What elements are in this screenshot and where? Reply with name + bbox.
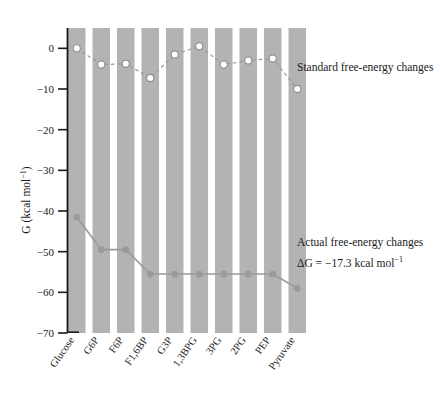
category-band: [117, 28, 135, 333]
y-tick-label: −40: [37, 205, 55, 217]
data-point-marker: [98, 246, 105, 253]
delta-g-prefix: ΔG =: [297, 257, 325, 269]
x-axis-category-label: 1,3BPG: [171, 335, 199, 369]
x-axis-category-label: F1,6BP: [123, 335, 150, 367]
x-axis-category-label: G6P: [81, 335, 101, 357]
data-point-marker: [196, 43, 203, 50]
data-point-marker: [196, 271, 203, 278]
y-axis-title-main: G (kcal mol: [20, 179, 33, 234]
free-energy-chart-figure: 0−10−20−30−40−50−60−70 G (kcal mol−1) Gl…: [0, 0, 440, 397]
data-point-marker: [245, 271, 252, 278]
delta-g-value: −17.3 kcal mol: [325, 257, 394, 269]
data-point-marker: [73, 45, 80, 52]
y-tick-label: −50: [37, 246, 55, 258]
data-point-marker: [147, 74, 154, 81]
standard-series-annotation: Standard free-energy changes: [297, 60, 433, 75]
data-point-marker: [171, 271, 178, 278]
x-axis-category-label: 3PG: [204, 335, 224, 357]
category-band: [142, 28, 160, 333]
category-band: [93, 28, 111, 333]
y-axis-title-close: ): [20, 166, 33, 170]
y-tick-label: 0: [49, 42, 55, 54]
category-band: [166, 28, 184, 333]
y-tick-group: 0−10−20−30−40−50−60−70: [37, 42, 68, 339]
category-band: [215, 28, 233, 333]
x-axis-category-label: PEP: [253, 335, 272, 356]
data-point-marker: [245, 57, 252, 64]
data-point-marker: [147, 271, 154, 278]
y-axis-title: G (kcal mol−1): [19, 166, 33, 233]
data-point-marker: [122, 60, 129, 67]
category-band: [240, 28, 258, 333]
actual-series-annotation: Actual free-energy changes ΔG = −17.3 kc…: [297, 235, 423, 271]
category-band: [191, 28, 209, 333]
data-point-marker: [269, 271, 276, 278]
y-tick-label: −30: [37, 164, 55, 176]
actual-series-label: Actual free-energy changes: [297, 235, 423, 250]
data-point-marker: [171, 51, 178, 58]
actual-delta-g-line: ΔG = −17.3 kcal mol−1: [297, 252, 423, 271]
x-axis-category-label: G3P: [155, 335, 175, 357]
x-axis-category-label-group: GlucoseG6PF6PF1,6BPG3P1,3BPG3PG2PGPEPPyr…: [48, 335, 297, 372]
y-tick-label: −10: [37, 83, 55, 95]
x-axis-category-label: Glucose: [48, 335, 77, 370]
standard-series-label: Standard free-energy changes: [297, 60, 433, 75]
data-point-marker: [122, 246, 129, 253]
y-tick-label: −60: [37, 286, 55, 298]
svg-text:G (kcal mol−1): G (kcal mol−1): [19, 166, 33, 233]
data-point-marker: [73, 214, 80, 221]
x-axis-category-label: F6P: [107, 335, 126, 355]
data-point-marker: [269, 55, 276, 62]
data-point-marker: [294, 285, 301, 292]
y-tick-label: −70: [37, 327, 55, 339]
category-band: [264, 28, 282, 333]
data-point-marker: [220, 61, 227, 68]
data-point-marker: [98, 61, 105, 68]
category-band: [68, 28, 86, 333]
delta-g-superscript: −1: [394, 255, 403, 264]
data-point-marker: [294, 85, 301, 92]
x-axis-category-label: Pyruvate: [266, 335, 297, 372]
data-point-marker: [220, 271, 227, 278]
y-axis-title-superscript: −1: [19, 170, 28, 179]
x-axis-category-label: 2PG: [228, 335, 248, 357]
category-band-group: [68, 28, 306, 333]
y-tick-label: −20: [37, 124, 55, 136]
